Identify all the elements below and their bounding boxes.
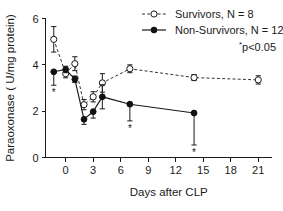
data-point-survivors [255, 77, 261, 83]
series-group: *** [51, 27, 262, 158]
data-point-survivors [72, 61, 78, 67]
legend-group: Survivors, N = 8Non-Survivors, N = 12*p<… [142, 8, 283, 53]
data-point-non-survivors [72, 76, 78, 82]
data-point-survivors [127, 66, 133, 72]
legend-label-2: Non-Survivors, N = 12 [175, 24, 283, 36]
data-point-non-survivors [90, 109, 96, 115]
x-tick-label: 3 [90, 164, 96, 176]
x-tick-label: 15 [197, 164, 209, 176]
x-tick-label: 12 [170, 164, 182, 176]
data-point-survivors [90, 94, 96, 100]
x-tick-label: 21 [252, 164, 264, 176]
data-point-survivors [191, 74, 197, 80]
x-tick-label: 0 [63, 164, 69, 176]
data-point-non-survivors [51, 69, 57, 75]
legend-label-1: Survivors, N = 8 [175, 8, 254, 20]
data-point-non-survivors [81, 116, 87, 122]
data-point-non-survivors [127, 101, 133, 107]
legend-marker-non-survivors [151, 27, 157, 33]
significance-star: * [192, 147, 196, 158]
significance-star: * [128, 123, 132, 134]
y-tick-label: 4 [32, 59, 38, 71]
x-tick-label: 18 [225, 164, 237, 176]
legend-marker-survivors [151, 11, 157, 17]
y-tick-label: 6 [32, 13, 38, 25]
p-value-annotation: *p<0.05 [239, 40, 276, 54]
p-value-text: p<0.05 [242, 41, 276, 53]
x-tick-label: 6 [118, 164, 124, 176]
chart-canvas: 0246036912151821 *** Survivors, N = 8Non… [0, 0, 283, 211]
data-point-non-survivors [191, 110, 197, 116]
series-line-1 [54, 39, 258, 104]
y-tick-label: 2 [32, 105, 38, 117]
data-point-non-survivors [99, 94, 105, 100]
y-axis-title: Paraoxonase ( U/mg protein) [4, 14, 16, 162]
significance-star: * [52, 87, 56, 98]
axes-group: 0246036912151821 [32, 13, 272, 176]
data-point-non-survivors [63, 67, 69, 73]
data-point-survivors [51, 36, 57, 42]
y-tick-label: 0 [32, 152, 38, 164]
x-tick-label: 9 [145, 164, 151, 176]
paraoxonase-figure: 0246036912151821 *** Survivors, N = 8Non… [0, 0, 283, 211]
data-point-survivors [81, 102, 87, 108]
x-axis-title: Days after CLP [130, 186, 208, 198]
